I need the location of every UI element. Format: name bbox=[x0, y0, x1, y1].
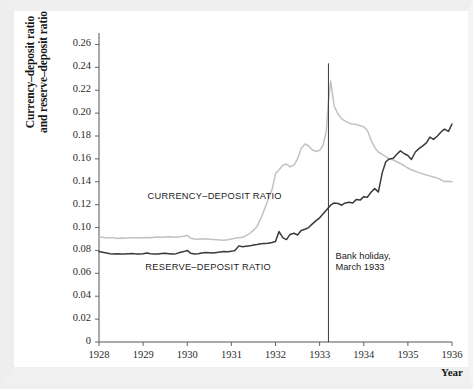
data-series bbox=[99, 81, 452, 254]
series-line bbox=[99, 124, 452, 254]
annotation-line: March 1933 bbox=[335, 262, 390, 274]
x-tick-label: 1934 bbox=[344, 349, 384, 360]
series-label: CURRENCY–DEPOSIT RATIO bbox=[148, 191, 282, 201]
x-tick-label: 1931 bbox=[211, 349, 251, 360]
x-tick-label: 1928 bbox=[79, 349, 119, 360]
y-tick-label: 0.26 bbox=[57, 37, 91, 48]
x-tick-label: 1936 bbox=[432, 349, 472, 360]
y-tick-label: 0.14 bbox=[57, 175, 91, 186]
y-tick-label: 0.04 bbox=[57, 289, 91, 300]
y-tick-label: 0.08 bbox=[57, 243, 91, 254]
y-tick-label: 0.22 bbox=[57, 83, 91, 94]
x-tick-label: 1935 bbox=[388, 349, 428, 360]
x-tick-label: 1933 bbox=[300, 349, 340, 360]
axes bbox=[95, 33, 452, 346]
bank-holiday-annotation: Bank holiday,March 1933 bbox=[335, 251, 390, 274]
x-axis-title: Year bbox=[441, 366, 463, 378]
x-tick-label: 1932 bbox=[256, 349, 296, 360]
y-tick-label: 0.20 bbox=[57, 106, 91, 117]
series-label: RESERVE–DEPOSIT RATIO bbox=[145, 262, 271, 272]
chart-figure: Currency–deposit ratio and reserve–depos… bbox=[0, 0, 473, 389]
y-tick-label: 0.06 bbox=[57, 266, 91, 277]
y-tick-label: 0.10 bbox=[57, 221, 91, 232]
y-tick-label: 0.12 bbox=[57, 198, 91, 209]
y-tick-label: 0 bbox=[57, 335, 91, 346]
x-tick-label: 1930 bbox=[167, 349, 207, 360]
y-tick-label: 0.16 bbox=[57, 152, 91, 163]
y-tick-label: 0.02 bbox=[57, 312, 91, 323]
x-tick-label: 1929 bbox=[123, 349, 163, 360]
y-tick-label: 0.18 bbox=[57, 129, 91, 140]
annotation-line: Bank holiday, bbox=[335, 251, 390, 263]
y-tick-label: 0.24 bbox=[57, 60, 91, 71]
series-line bbox=[99, 81, 452, 240]
